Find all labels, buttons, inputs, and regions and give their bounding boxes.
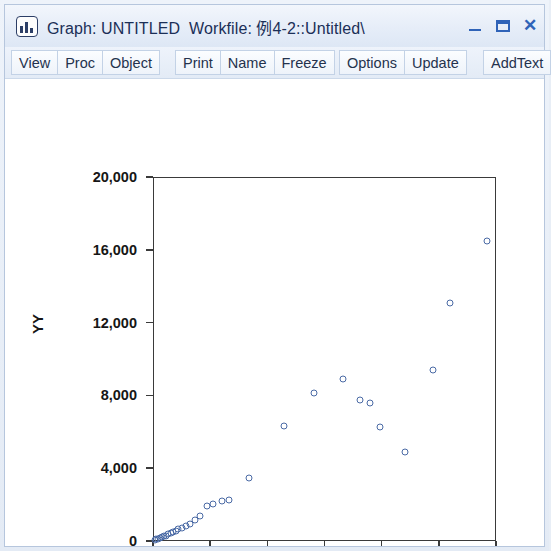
y-tick-label: 4,000	[5, 460, 137, 476]
toolbar-group-3: OptionsUpdate	[339, 50, 466, 75]
maximize-button[interactable]	[492, 18, 514, 36]
window-title-workfile: Workfile: 例4-2::Untitled\	[189, 20, 365, 37]
scatter-point	[281, 423, 288, 430]
scatter-point	[197, 512, 204, 519]
y-tick-label: 8,000	[5, 387, 137, 403]
y-tick-mark	[146, 395, 153, 397]
plot-frame	[153, 177, 496, 541]
toolbar-button-update[interactable]: Update	[404, 50, 467, 75]
y-tick-mark	[146, 322, 153, 324]
graph-window: Graph: UNTITLEDWorkfile: 例4-2::Untitled\…	[4, 4, 545, 547]
y-tick-label: 0	[5, 533, 137, 546]
scatter-point	[430, 366, 437, 373]
y-tick-mark	[146, 467, 153, 469]
toolbar-button-object[interactable]: Object	[102, 50, 160, 75]
x-tick-mark	[381, 541, 383, 546]
scatter-point	[357, 396, 364, 403]
toolbar-group-4: AddText	[483, 50, 550, 75]
toolbar-group-1: ViewProcObject	[11, 50, 159, 75]
title-bar: Graph: UNTITLEDWorkfile: 例4-2::Untitled\…	[5, 5, 544, 47]
minimize-button[interactable]	[464, 18, 486, 36]
x-tick-mark	[495, 541, 497, 546]
chart-canvas: YY GNI 04,0008,00012,00016,00020,000020,…	[5, 79, 544, 546]
scatter-point	[218, 497, 225, 504]
toolbar-button-name[interactable]: Name	[220, 50, 275, 75]
close-button[interactable]: ✕	[519, 18, 541, 36]
scatter-point	[484, 237, 491, 244]
toolbar-button-print[interactable]: Print	[175, 50, 221, 75]
toolbar-button-freeze[interactable]: Freeze	[274, 50, 335, 75]
x-tick-mark	[438, 541, 440, 546]
y-tick-mark	[146, 176, 153, 178]
scatter-point	[367, 399, 374, 406]
scatter-point	[377, 424, 384, 431]
y-tick-label: 12,000	[5, 315, 137, 331]
scatter-point	[245, 475, 252, 482]
y-tick-label: 20,000	[5, 169, 137, 185]
toolbar-group-2: PrintNameFreeze	[175, 50, 334, 75]
x-tick-mark	[209, 541, 211, 546]
toolbar: ViewProcObjectPrintNameFreezeOptionsUpda…	[5, 47, 544, 79]
scatter-point	[447, 299, 454, 306]
scatter-point	[225, 497, 232, 504]
x-tick-mark	[267, 541, 269, 546]
toolbar-button-addtext[interactable]: AddText	[483, 50, 551, 75]
toolbar-button-view[interactable]: View	[11, 50, 58, 75]
bar-chart-icon	[16, 16, 38, 37]
window-title: Graph: UNTITLEDWorkfile: 例4-2::Untitled\	[47, 15, 365, 39]
y-tick-label: 16,000	[5, 242, 137, 258]
scatter-point	[401, 448, 408, 455]
window-title-graph: Graph: UNTITLED	[47, 20, 180, 37]
scatter-point	[340, 376, 347, 383]
toolbar-button-proc[interactable]: Proc	[57, 50, 103, 75]
scatter-point	[311, 389, 318, 396]
toolbar-button-options[interactable]: Options	[339, 50, 405, 75]
x-tick-mark	[324, 541, 326, 546]
y-tick-mark	[146, 249, 153, 251]
scatter-point	[210, 500, 217, 507]
